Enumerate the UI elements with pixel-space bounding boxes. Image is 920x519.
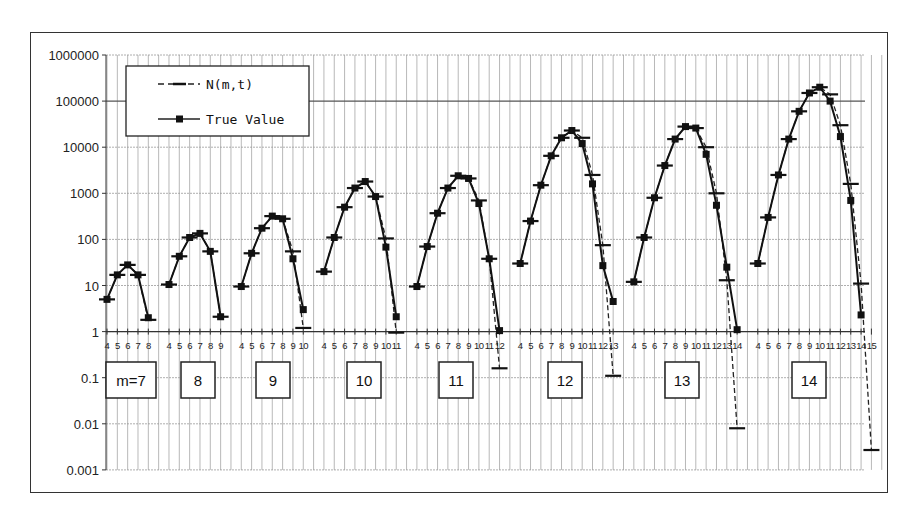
- x-tick-label: 6: [652, 340, 657, 351]
- true-marker: [713, 202, 720, 209]
- legend-label-true: True Value: [206, 112, 284, 127]
- true-marker: [279, 215, 286, 222]
- true-marker: [372, 193, 379, 200]
- x-tick-label: 4: [167, 340, 172, 351]
- true-marker: [517, 260, 524, 267]
- true-marker: [248, 250, 255, 257]
- x-tick-label: 10: [577, 340, 587, 351]
- x-tick-label: 10: [815, 340, 825, 351]
- x-tick-label: 9: [291, 340, 296, 351]
- true-marker: [124, 261, 131, 268]
- x-tick-label: 7: [445, 340, 450, 351]
- true-marker: [682, 123, 689, 130]
- true-marker: [114, 271, 121, 278]
- x-tick-label: 8: [208, 340, 213, 351]
- true-marker: [186, 234, 193, 241]
- y-tick-label: 0.1: [81, 371, 99, 386]
- x-tick-label: 6: [342, 340, 347, 351]
- true-marker: [393, 313, 400, 320]
- true-marker: [765, 214, 772, 221]
- true-marker: [734, 326, 741, 333]
- group-label: 10: [356, 372, 373, 389]
- x-tick-label: 6: [538, 340, 543, 351]
- true-series-line: [520, 131, 613, 302]
- n-series-line: [324, 182, 396, 333]
- x-tick-label: 14: [732, 340, 742, 351]
- true-marker: [672, 136, 679, 143]
- true-marker: [455, 172, 462, 179]
- true-marker: [858, 311, 865, 318]
- true-marker: [145, 314, 152, 321]
- true-marker: [630, 278, 637, 285]
- y-axis: 10000001000001000010001001010.10.010.001: [48, 48, 106, 478]
- group-label: 12: [557, 372, 574, 389]
- true-marker: [537, 182, 544, 189]
- x-tick-label: 12: [598, 340, 608, 351]
- true-marker: [331, 234, 338, 241]
- true-marker: [785, 136, 792, 143]
- true-marker: [661, 162, 668, 169]
- x-tick-label: 9: [466, 340, 471, 351]
- true-marker: [579, 140, 586, 147]
- true-marker: [351, 185, 358, 192]
- true-marker: [382, 244, 389, 251]
- x-tick-label: 4: [518, 340, 523, 351]
- x-tick-label: 9: [373, 340, 378, 351]
- true-marker: [341, 204, 348, 211]
- true-marker: [796, 108, 803, 115]
- log-line-chart: 10000001000001000010001001010.10.010.001…: [0, 0, 920, 519]
- y-tick-label: 1000: [70, 186, 99, 201]
- group-labels: m=7891011121314: [106, 362, 826, 398]
- x-tick-label: 8: [673, 340, 678, 351]
- y-tick-label: 0.001: [66, 463, 99, 478]
- true-marker: [837, 133, 844, 140]
- x-tick-label: 10: [474, 340, 484, 351]
- x-tick-label: 11: [392, 340, 401, 351]
- x-tick-label: 11: [702, 340, 711, 351]
- x-tick-label: 5: [332, 340, 337, 351]
- x-tick-label: 7: [353, 340, 358, 351]
- true-marker: [527, 218, 534, 225]
- square-marker-icon: [176, 116, 183, 123]
- true-marker: [754, 260, 761, 267]
- group-m10: [316, 178, 404, 333]
- legend: N(m,t) True Value: [126, 66, 309, 136]
- x-tick-label: 13: [722, 340, 732, 351]
- x-tick-label: 7: [786, 340, 791, 351]
- true-marker: [289, 255, 296, 262]
- true-marker: [610, 298, 617, 305]
- x-tick-label: 13: [846, 340, 856, 351]
- y-tick-label: 0.01: [74, 417, 99, 432]
- true-marker: [444, 185, 451, 192]
- x-tick-label: 8: [363, 340, 368, 351]
- true-marker: [269, 213, 276, 220]
- x-tick-label: 15: [867, 340, 877, 351]
- true-marker: [589, 180, 596, 187]
- true-marker: [816, 84, 823, 91]
- x-tick-label: 10: [298, 340, 308, 351]
- x-tick-label: 4: [415, 340, 420, 351]
- group-label: 8: [194, 372, 202, 389]
- true-marker: [424, 243, 431, 250]
- x-tick-label: 12: [836, 340, 846, 351]
- y-tick-label: 10: [85, 279, 99, 294]
- true-marker: [258, 225, 265, 232]
- true-marker: [641, 234, 648, 241]
- y-tick-label: 100: [77, 232, 99, 247]
- group-label: 11: [448, 372, 464, 389]
- true-marker: [827, 98, 834, 105]
- group-m12: [512, 127, 621, 376]
- true-marker: [207, 248, 214, 255]
- x-tick-label: 4: [755, 340, 760, 351]
- x-tick-label: 5: [425, 340, 430, 351]
- true-marker: [176, 253, 183, 260]
- x-tick-label: 4: [105, 340, 110, 351]
- true-marker: [238, 283, 245, 290]
- x-tick-label: 8: [280, 340, 285, 351]
- x-tick-label: 5: [528, 340, 533, 351]
- x-tick-label: 6: [435, 340, 440, 351]
- x-tick-label: 6: [260, 340, 265, 351]
- true-marker: [434, 210, 441, 217]
- true-marker: [847, 197, 854, 204]
- x-tick-label: 11: [826, 340, 835, 351]
